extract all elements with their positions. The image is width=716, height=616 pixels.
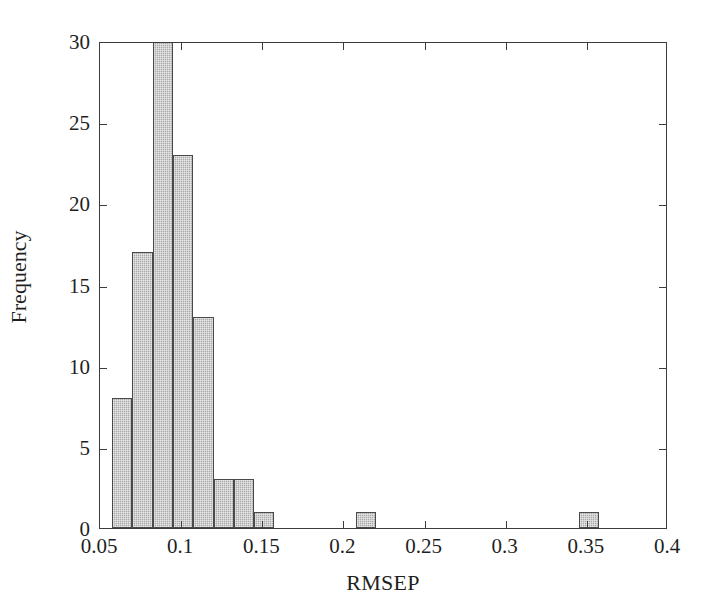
y-tick-label: 20 xyxy=(69,194,90,215)
y-tick-mark-right xyxy=(659,368,666,369)
histogram-bar xyxy=(193,317,213,528)
y-tick-label: 5 xyxy=(80,437,91,458)
x-tick-label: 0.35 xyxy=(567,536,604,557)
x-axis-title: RMSEP xyxy=(99,570,667,596)
histogram-bar xyxy=(254,512,274,528)
x-tick-mark xyxy=(343,521,344,528)
x-tick-label: 0.25 xyxy=(405,536,442,557)
x-tick-mark xyxy=(425,521,426,528)
histogram-figure: 051015202530 0.050.10.150.20.250.30.350.… xyxy=(0,0,716,616)
plot-frame xyxy=(99,42,667,529)
histogram-bar xyxy=(579,512,599,528)
histogram-bar xyxy=(132,252,152,528)
x-tick-label: 0.2 xyxy=(329,536,355,557)
x-tick-mark xyxy=(181,521,182,528)
y-axis-title: Frequency xyxy=(6,197,32,357)
histogram-bar xyxy=(112,398,132,528)
y-tick-label: 30 xyxy=(69,32,90,53)
y-tick-mark xyxy=(100,124,107,125)
histogram-bar xyxy=(214,479,234,528)
histogram-bar xyxy=(173,155,193,528)
x-tick-mark-top xyxy=(181,43,182,50)
plot-area xyxy=(100,43,666,528)
x-axis-tick-labels: 0.050.10.150.20.250.30.350.4 xyxy=(99,536,667,566)
x-tick-label: 0.15 xyxy=(243,536,280,557)
x-tick-mark-top xyxy=(262,43,263,50)
y-tick-label: 15 xyxy=(69,275,90,296)
y-tick-mark-right xyxy=(659,287,666,288)
y-tick-mark xyxy=(100,368,107,369)
x-tick-mark xyxy=(587,521,588,528)
x-tick-label: 0.4 xyxy=(654,536,680,557)
y-tick-mark-right xyxy=(659,449,666,450)
y-tick-mark xyxy=(100,287,107,288)
x-tick-label: 0.3 xyxy=(492,536,518,557)
x-tick-mark-top xyxy=(425,43,426,50)
y-tick-mark-right xyxy=(659,205,666,206)
x-tick-mark-top xyxy=(343,43,344,50)
y-tick-label: 10 xyxy=(69,356,90,377)
x-tick-mark-top xyxy=(506,43,507,50)
x-tick-label: 0.05 xyxy=(81,536,118,557)
histogram-bar xyxy=(234,479,254,528)
x-tick-mark xyxy=(262,521,263,528)
x-tick-mark xyxy=(506,521,507,528)
x-tick-label: 0.1 xyxy=(167,536,193,557)
y-tick-mark xyxy=(100,205,107,206)
y-tick-mark xyxy=(100,449,107,450)
y-tick-label: 25 xyxy=(69,113,90,134)
histogram-bar xyxy=(153,43,173,528)
y-tick-mark-right xyxy=(659,124,666,125)
x-tick-mark-top xyxy=(587,43,588,50)
histogram-bar xyxy=(356,512,376,528)
